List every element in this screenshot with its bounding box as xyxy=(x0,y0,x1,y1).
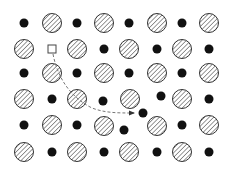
large-atom xyxy=(68,40,87,59)
small-atom xyxy=(99,97,108,106)
small-atom xyxy=(178,69,187,78)
vacancy-site xyxy=(48,45,56,53)
large-atom xyxy=(120,143,139,162)
large-atom xyxy=(173,90,192,109)
small-atom xyxy=(153,45,162,54)
large-atom xyxy=(121,90,140,109)
interstitial-atom xyxy=(139,109,148,118)
small-atom xyxy=(48,95,57,104)
large-atom xyxy=(15,90,34,109)
small-atom xyxy=(100,45,109,54)
small-atom xyxy=(153,148,162,157)
small-atom xyxy=(120,126,129,135)
small-atom xyxy=(205,148,214,157)
large-atom xyxy=(15,40,34,59)
large-atom xyxy=(68,143,87,162)
small-atom xyxy=(125,19,134,28)
large-atom xyxy=(95,64,114,83)
large-atom xyxy=(200,64,219,83)
large-atom xyxy=(43,14,62,33)
large-atom xyxy=(148,64,167,83)
large-atom xyxy=(15,143,34,162)
large-atom xyxy=(200,116,219,135)
small-atom xyxy=(205,95,214,104)
large-atom xyxy=(148,117,167,136)
large-atom xyxy=(173,143,192,162)
large-atom xyxy=(173,40,192,59)
small-atom xyxy=(20,69,29,78)
small-atom xyxy=(20,121,29,130)
small-atom xyxy=(157,92,166,101)
small-atom xyxy=(73,19,82,28)
background xyxy=(0,0,231,172)
large-atom xyxy=(95,117,114,136)
large-atom xyxy=(148,14,167,33)
large-atom xyxy=(43,64,62,83)
small-atom xyxy=(20,19,29,28)
large-atom xyxy=(120,40,139,59)
small-atom xyxy=(73,121,82,130)
small-atom xyxy=(48,148,57,157)
large-atom xyxy=(200,14,219,33)
small-atom xyxy=(205,45,214,54)
lattice-diagram xyxy=(0,0,231,172)
small-atom xyxy=(178,121,187,130)
large-atom xyxy=(95,14,114,33)
small-atom xyxy=(73,69,82,78)
large-atom xyxy=(68,90,87,109)
large-atom xyxy=(43,116,62,135)
small-atom xyxy=(178,19,187,28)
small-atom xyxy=(100,148,109,157)
small-atom xyxy=(125,69,134,78)
